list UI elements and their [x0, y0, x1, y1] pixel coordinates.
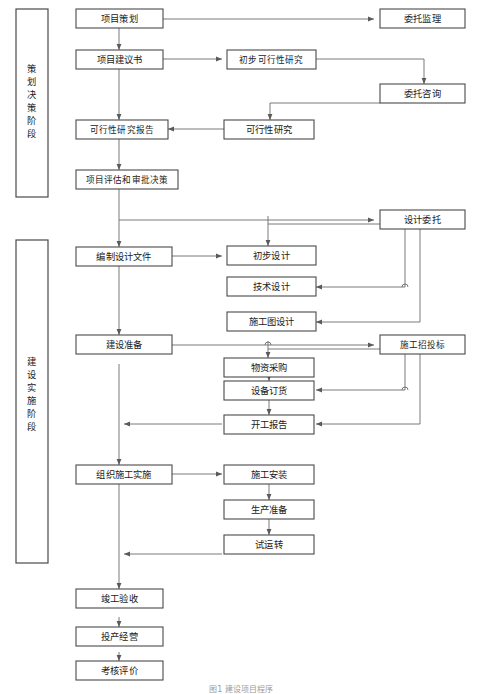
node-n13-label: 施工图设计 — [249, 316, 295, 327]
node-n20[interactable]: 施工安装 — [224, 465, 314, 484]
node-n7-label: 可行性研究 — [246, 124, 292, 135]
node-n7[interactable]: 可行性研究 — [224, 120, 314, 139]
svg-text:段: 段 — [27, 421, 36, 432]
node-n23-label: 竣工验收 — [101, 593, 138, 604]
node-n19[interactable]: 组织施工实施 — [76, 465, 172, 484]
flowchart-canvas: 策 划 决 策 阶 段 建 设 实 施 阶 段 — [0, 0, 482, 694]
node-n10[interactable]: 编制设计文件 — [76, 247, 172, 266]
node-n3-label: 项目建议书 — [97, 54, 143, 65]
svg-text:阶: 阶 — [27, 115, 36, 126]
node-n15-label: 施工招投标 — [400, 339, 446, 350]
node-n4-label: 初步可行性研究 — [239, 54, 303, 65]
node-n14[interactable]: 建设准备 — [76, 335, 172, 354]
node-n16[interactable]: 物资采购 — [224, 358, 314, 377]
svg-text:决: 决 — [27, 89, 36, 100]
node-n9[interactable]: 设计委托 — [380, 210, 465, 229]
node-n18[interactable]: 开工报告 — [224, 415, 314, 434]
svg-text:建: 建 — [27, 356, 36, 367]
edge-n15-n17 — [316, 354, 405, 390]
node-n25-label: 考核评价 — [101, 665, 138, 676]
node-n5[interactable]: 委托咨询 — [380, 84, 465, 103]
node-n19-label: 组织施工实施 — [96, 469, 151, 480]
node-n21[interactable]: 生产准备 — [224, 500, 314, 519]
node-n10-label: 编制设计文件 — [96, 251, 151, 262]
edge-n15-n18 — [316, 354, 420, 424]
node-n9-label: 设计委托 — [404, 214, 441, 225]
svg-text:设: 设 — [27, 369, 36, 380]
svg-text:施: 施 — [27, 395, 36, 406]
svg-text:划: 划 — [27, 76, 36, 87]
node-n2-label: 委托监理 — [404, 13, 441, 24]
flowchart-svg: 策 划 决 策 阶 段 建 设 实 施 阶 段 — [0, 0, 482, 694]
node-n1[interactable]: 项目策划 — [76, 9, 163, 28]
node-n21-label: 生产准备 — [251, 504, 289, 515]
node-n12[interactable]: 技术设计 — [227, 277, 316, 296]
node-n2[interactable]: 委托监理 — [380, 9, 465, 28]
node-n22-label: 试运转 — [255, 539, 283, 550]
node-n24[interactable]: 投产经营 — [76, 627, 163, 646]
edge-n9-n12 — [316, 229, 405, 287]
node-n6[interactable]: 可行性研究报告 — [76, 120, 168, 139]
node-n18-label: 开工报告 — [251, 419, 288, 430]
edge-n9-n13 — [316, 229, 420, 322]
svg-text:实: 实 — [27, 382, 36, 393]
svg-text:阶: 阶 — [27, 408, 36, 419]
node-n20-label: 施工安装 — [251, 469, 288, 480]
node-n11-label: 初步设计 — [253, 250, 290, 261]
figure-caption: 图1 建设项目程序 — [209, 684, 273, 694]
edge-n4-n5 — [316, 59, 424, 84]
svg-text:段: 段 — [27, 128, 36, 139]
node-n6-label: 可行性研究报告 — [90, 124, 154, 135]
node-n4[interactable]: 初步可行性研究 — [227, 50, 316, 69]
node-n24-label: 投产经营 — [101, 631, 138, 642]
node-n17-label: 设备订货 — [251, 385, 288, 396]
edge-n5-n7 — [270, 103, 380, 120]
node-n12-label: 技术设计 — [253, 281, 290, 292]
node-layer: 项目策划 委托监理 项目建议书 初步可行性研究 委托咨询 可行性研究报告 可行性… — [76, 9, 465, 680]
svg-text:策: 策 — [27, 102, 36, 113]
node-n14-label: 建设准备 — [106, 339, 144, 350]
node-n22[interactable]: 试运转 — [224, 535, 314, 554]
node-n25[interactable]: 考核评价 — [76, 661, 163, 680]
node-n13[interactable]: 施工图设计 — [227, 312, 316, 331]
node-n8[interactable]: 项目评估和审批决策 — [76, 170, 178, 189]
svg-text:策: 策 — [27, 63, 36, 74]
phase-rail: 策 划 决 策 阶 段 建 设 实 施 阶 段 — [16, 9, 48, 563]
node-n23[interactable]: 竣工验收 — [76, 589, 163, 608]
node-n5-label: 委托咨询 — [404, 88, 441, 99]
node-n11[interactable]: 初步设计 — [227, 246, 316, 265]
node-n17[interactable]: 设备订货 — [224, 381, 314, 400]
node-n15[interactable]: 施工招投标 — [380, 335, 465, 354]
node-n16-label: 物资采购 — [251, 362, 288, 373]
node-n8-label: 项目评估和审批决策 — [86, 174, 169, 185]
node-n3[interactable]: 项目建议书 — [76, 50, 163, 69]
node-n1-label: 项目策划 — [101, 13, 138, 24]
